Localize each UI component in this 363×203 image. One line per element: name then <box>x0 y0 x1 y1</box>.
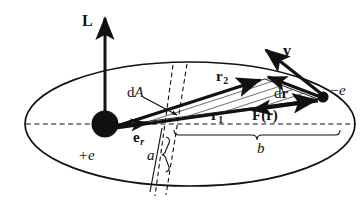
label-dimension-a: a <box>147 148 155 163</box>
minor-axis-dashed-line-left <box>155 65 173 196</box>
label-radius-r2: r2 <box>216 69 228 86</box>
label-area-element-dA: dA <box>127 85 144 100</box>
label-radius-r1: r1 <box>211 108 223 125</box>
label-dA-A: A <box>135 84 144 100</box>
label-dimension-b: b <box>257 141 265 156</box>
label-dr-d: d <box>274 85 282 101</box>
label-dr-r: r <box>282 85 289 101</box>
label-r2-symbol: r <box>216 68 223 84</box>
label-r1-symbol: r <box>211 107 218 123</box>
label-velocity-v: v <box>283 43 291 59</box>
brace-b <box>174 130 340 140</box>
label-er-symbol: e <box>133 129 140 145</box>
label-electron-charge: −e <box>329 83 346 98</box>
brace-a <box>162 137 169 172</box>
electron-dot <box>317 91 328 102</box>
diagram-canvas <box>0 0 363 203</box>
label-force-F-of-r: F(r) <box>252 108 278 123</box>
nucleus-dot <box>92 111 119 138</box>
label-angular-momentum-L: L <box>82 13 93 29</box>
label-dA-d: d <box>127 84 135 100</box>
label-displacement-dr: dr <box>274 86 288 101</box>
label-er-subscript: r <box>140 136 144 147</box>
label-unit-vector-e-r: er <box>133 130 144 147</box>
minor-axis-dashed-line-right <box>166 64 187 195</box>
label-r2-subscript: 2 <box>223 75 228 86</box>
orbital-angular-momentum-diagram: L v dA r2 dr −e r1 F(r) er a b +e <box>0 0 363 203</box>
label-r1-subscript: 1 <box>218 114 223 125</box>
label-nucleus-charge: +e <box>78 148 95 163</box>
